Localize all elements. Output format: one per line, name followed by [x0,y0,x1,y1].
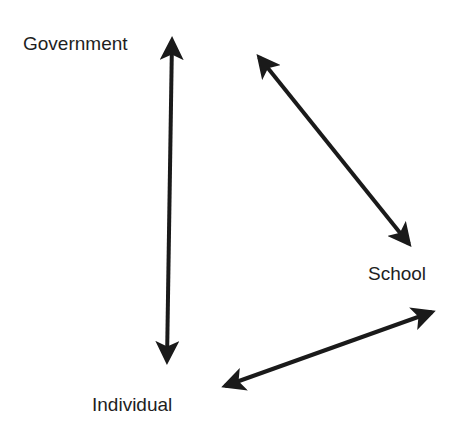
government-school-arrow [259,57,409,244]
government-individual-arrow [167,40,172,361]
school-individual-arrow [225,312,432,386]
government-label: Government [23,34,128,53]
arrows-layer [0,0,470,433]
school-label: School [368,264,426,283]
relationship-diagram: Government School Individual [0,0,470,433]
individual-label: Individual [92,395,172,414]
